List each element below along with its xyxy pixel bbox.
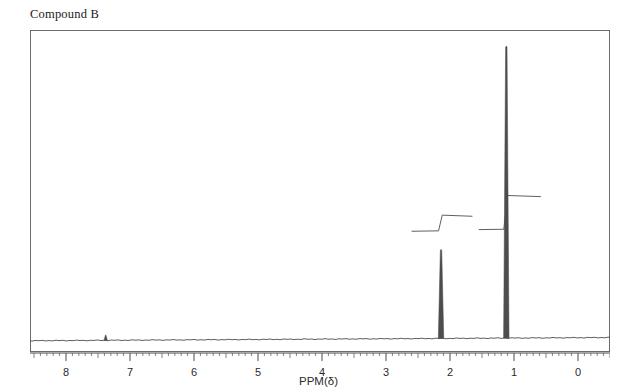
integral-a xyxy=(412,215,473,231)
page-title: Compound B xyxy=(30,7,99,22)
nmr-spectrum-page: Compound B 876543210 PPM(δ) xyxy=(0,0,637,392)
spectrum-trace-group xyxy=(30,46,610,341)
x-axis-title: PPM(δ) xyxy=(0,375,637,387)
x-axis-ruler xyxy=(30,352,610,366)
peak-peak-b xyxy=(504,46,509,338)
spectrum-plot xyxy=(30,30,610,352)
integral-b xyxy=(479,196,541,230)
baseline-trace xyxy=(30,337,610,341)
peak-peak-a xyxy=(438,249,443,338)
axis-tick-group xyxy=(34,353,610,361)
integral-trace-group xyxy=(412,196,541,232)
peak-residual-solvent xyxy=(104,335,107,340)
